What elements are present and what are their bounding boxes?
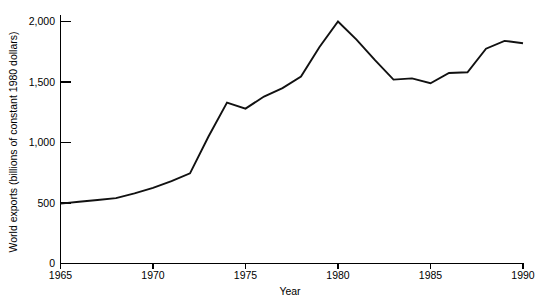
y-tick-label-1500: 1,500 (29, 76, 55, 88)
x-tick-label-1975: 1975 (234, 269, 258, 281)
x-tick-label-1965: 1965 (49, 269, 73, 281)
y-tick-label-2000: 2,000 (29, 15, 55, 27)
y-axis-title: World exports (billions of constant 1980… (7, 32, 19, 253)
y-tick-label-1000: 1,000 (29, 136, 55, 148)
y-tick-label-0: 0 (49, 257, 55, 269)
chart-figure: World exports (billions of constant 1980… (0, 0, 547, 302)
x-tick-label-1970: 1970 (141, 269, 165, 281)
line-chart: World exports (billions of constant 1980… (0, 0, 547, 302)
x-tick-label-1985: 1985 (419, 269, 443, 281)
x-tick-label-1990: 1990 (511, 269, 535, 281)
data-series-line (61, 22, 524, 204)
y-tick-label-500: 500 (37, 197, 55, 209)
x-tick-label-1980: 1980 (326, 269, 350, 281)
x-axis-title: Year (279, 285, 301, 297)
